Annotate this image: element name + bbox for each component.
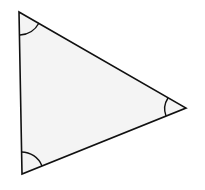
triangle-figure xyxy=(0,0,205,190)
diagram-canvas xyxy=(0,0,205,190)
triangle xyxy=(19,12,186,174)
